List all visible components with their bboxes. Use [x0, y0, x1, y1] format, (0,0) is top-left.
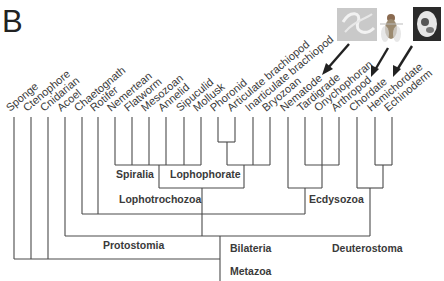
clade-label-lophophorate: Lophophorate [170, 168, 241, 180]
clade-label-lophotrochozoa: Lophotrochozoa [119, 193, 201, 205]
arrow-to-nematode [328, 44, 349, 68]
nematode-image [337, 8, 377, 41]
arrow-to-arthropod [375, 48, 388, 70]
clade-label-ecdysozoa: Ecdysozoa [309, 193, 364, 205]
embryo-image [413, 7, 441, 41]
clade-label-spiralia: Spiralia [116, 168, 154, 180]
fruit-fly-image [380, 14, 403, 42]
clade-label-protostomia: Protostomia [103, 239, 164, 251]
tree-svg: SpongeCtenophoreCnidarianAcoelChaetognat… [0, 0, 444, 281]
clade-label-bilateria: Bilateria [230, 242, 272, 254]
taxon-labels: SpongeCtenophoreCnidarianAcoelChaetognat… [4, 33, 435, 114]
phylogeny-figure: B SpongeCtenophoreCnidarianAcoelChaetogn… [0, 0, 444, 281]
panel-label: B [2, 6, 23, 37]
clade-label-deuterostoma: Deuterostoma [332, 242, 403, 254]
clade-label-metazoa: Metazoa [230, 265, 272, 277]
